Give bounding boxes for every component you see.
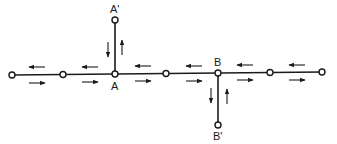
label-a-prime: A' [110,3,119,15]
node-a [112,71,118,77]
node-b [215,70,221,76]
label-a: A [111,80,119,92]
label-b-prime: B' [213,130,222,142]
node-7 [319,69,325,75]
node-4 [163,71,169,77]
node-a-prime [112,17,118,23]
node-6 [267,70,273,76]
node-b-prime [215,122,221,128]
label-b: B [214,56,221,68]
node-1 [9,72,15,78]
node-2 [60,72,66,78]
network-diagram: A' A B B' [0,0,337,144]
